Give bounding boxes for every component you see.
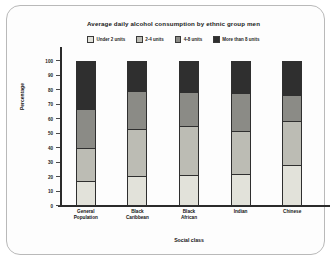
- x-axis-label: BlackCaribbean: [112, 209, 164, 221]
- y-axis-tick-label: 40: [48, 145, 53, 150]
- stacked-bar[interactable]: [179, 61, 199, 206]
- x-axis-label-line: Indian: [215, 209, 267, 215]
- y-axis-tick-label: 10: [48, 189, 53, 194]
- y-axis-title: Percentage: [19, 83, 25, 110]
- legend-label: More than 8 units: [222, 37, 259, 42]
- x-axis-label: Chinese: [266, 209, 318, 221]
- bar-segment[interactable]: [180, 175, 198, 205]
- plot-area: 0102030405060708090100: [60, 61, 318, 206]
- bar-segment[interactable]: [128, 129, 146, 176]
- y-axis-tick-label: 20: [48, 174, 53, 179]
- x-axis-title: Social class: [60, 237, 318, 243]
- legend-swatch-icon: [136, 36, 143, 43]
- bar-segment[interactable]: [232, 62, 250, 93]
- bar-segment[interactable]: [77, 148, 95, 181]
- bar-group: [163, 61, 215, 206]
- bar-segment[interactable]: [77, 181, 95, 205]
- chart-title: Average daily alcohol consumption by eth…: [7, 20, 333, 27]
- bar-segment[interactable]: [77, 62, 95, 109]
- x-axis-label: Indian: [215, 209, 267, 221]
- bar-segment[interactable]: [180, 92, 198, 126]
- y-axis-tick-label: 50: [48, 131, 53, 136]
- stacked-bar[interactable]: [76, 61, 96, 206]
- bar-segment[interactable]: [232, 93, 250, 130]
- y-axis-tick-label: 30: [48, 160, 53, 165]
- legend-swatch-icon: [175, 36, 182, 43]
- legend-item[interactable]: 2-4 units: [136, 36, 164, 43]
- x-axis-label-line: Chinese: [266, 209, 318, 215]
- legend-item[interactable]: Under 2 units: [87, 36, 125, 43]
- bar-segment[interactable]: [180, 62, 198, 92]
- bar-segment[interactable]: [283, 121, 301, 165]
- bar-group: [215, 61, 267, 206]
- bar-group: [60, 61, 112, 206]
- y-axis-tick-label: 90: [48, 73, 53, 78]
- legend-label: 2-4 units: [145, 37, 164, 42]
- stacked-bar[interactable]: [231, 61, 251, 206]
- bar-segment[interactable]: [128, 91, 146, 130]
- x-axis-label-line: Caribbean: [112, 215, 164, 221]
- bar-segment[interactable]: [283, 95, 301, 121]
- chart-legend: Under 2 units2-4 units4-8 unitsMore than…: [7, 36, 333, 43]
- y-axis-tick-label: 100: [45, 58, 53, 63]
- y-axis-tick-label: 80: [48, 87, 53, 92]
- y-axis-tick-label: 60: [48, 116, 53, 121]
- bar-segment[interactable]: [283, 62, 301, 95]
- y-axis-tick-label: 70: [48, 102, 53, 107]
- bar-segment[interactable]: [128, 176, 146, 205]
- x-axis-label-line: Population: [60, 215, 112, 221]
- stacked-bar[interactable]: [127, 61, 147, 206]
- stacked-bar[interactable]: [282, 61, 302, 206]
- legend-label: Under 2 units: [96, 37, 125, 42]
- legend-swatch-icon: [213, 36, 220, 43]
- bar-segment[interactable]: [232, 174, 250, 205]
- bar-series-container: [60, 61, 318, 206]
- bar-segment[interactable]: [283, 165, 301, 205]
- legend-label: 4-8 units: [184, 37, 203, 42]
- bar-group: [266, 61, 318, 206]
- legend-item[interactable]: More than 8 units: [213, 36, 259, 43]
- bar-segment[interactable]: [180, 126, 198, 175]
- x-axis-label-line: African: [163, 215, 215, 221]
- bar-segment[interactable]: [128, 62, 146, 91]
- bar-group: [112, 61, 164, 206]
- bar-segment[interactable]: [77, 109, 95, 148]
- x-axis-label: GeneralPopulation: [60, 209, 112, 221]
- x-axis-category-labels: GeneralPopulationBlackCaribbeanBlackAfri…: [60, 209, 318, 221]
- bar-segment[interactable]: [232, 131, 250, 174]
- x-axis-label: BlackAfrican: [163, 209, 215, 221]
- y-axis-tick-label: 0: [50, 203, 53, 208]
- chart-frame: Average daily alcohol consumption by eth…: [6, 5, 325, 255]
- legend-swatch-icon: [87, 36, 94, 43]
- legend-item[interactable]: 4-8 units: [175, 36, 203, 43]
